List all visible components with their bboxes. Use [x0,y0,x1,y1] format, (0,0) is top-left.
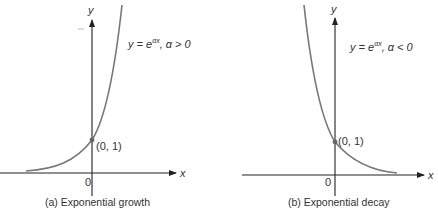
x-axis-label: x [179,167,186,179]
origin-label: 0 [85,176,91,188]
point-marker [333,140,338,145]
point-marker [90,138,95,143]
point-label: (0, 1) [96,140,122,152]
y-axis-label: y [87,4,95,16]
decay-curve [304,5,397,173]
x-axis-label: x [427,169,434,181]
origin-label: 0 [325,176,331,188]
caption: (a) Exponential growth [45,196,150,208]
panel-decay: (0, 1) 0 x y y = eαx, α < 0 (b) Exponent… [242,3,434,208]
equation-label: y = eαx, α > 0 [127,37,192,50]
equation-label: y = eαx, α < 0 [349,40,414,53]
caption: (b) Exponential decay [288,196,390,208]
panel-growth: (0, 1) 0 x y y = eαx, α > 0 (a) Exponent… [0,4,192,208]
y-axis-label: y [330,3,338,15]
exponential-figure: (0, 1) 0 x y y = eαx, α > 0 (a) Exponent… [0,0,438,211]
point-label: (0, 1) [338,135,364,147]
